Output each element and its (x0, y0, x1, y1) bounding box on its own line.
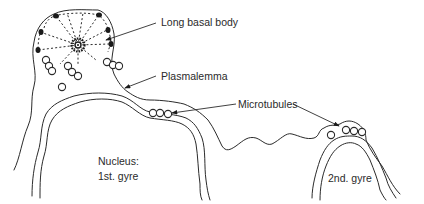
nuclear-envelope-2-outer (312, 136, 396, 198)
label-long-basal-body: Long basal body (161, 17, 238, 28)
microtubules-leader-left (172, 104, 236, 113)
label-plasmalemma: Plasmalemma (161, 71, 228, 82)
label-second-gyre: 2nd. gyre (328, 173, 372, 184)
diagram-canvas: Long basal body Plasmalemma Microtubules… (0, 0, 424, 204)
nuclear-envelope-1-outer (32, 93, 210, 200)
microtubule-cluster-basal (42, 56, 122, 90)
label-first-gyre: 1st. gyre (98, 171, 138, 182)
label-microtubules: Microtubules (238, 99, 298, 110)
microtubules-leader-right (293, 104, 339, 126)
microtubule-cluster-gyre2 (327, 126, 365, 138)
microtubule-cluster-gyre1 (149, 109, 171, 117)
label-nucleus: Nucleus: (98, 156, 139, 167)
plasmalemma-leader (125, 76, 156, 88)
nuclear-envelope-1-inner (40, 99, 202, 200)
